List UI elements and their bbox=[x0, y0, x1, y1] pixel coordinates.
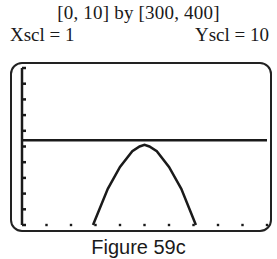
figure-caption: Figure 59c bbox=[0, 236, 277, 259]
parabola-curve bbox=[93, 145, 196, 225]
x-axis-tick-dots bbox=[45, 224, 268, 226]
